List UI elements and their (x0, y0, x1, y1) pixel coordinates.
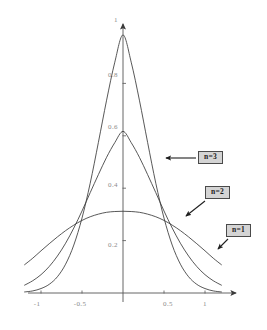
x-tick-label-1: 1 (196, 300, 214, 308)
x-tick-label-0-5: 0.5 (155, 300, 181, 308)
y-tick-label-1: 1 (98, 16, 118, 24)
y-tick-label-0-4: 0.4 (96, 181, 118, 189)
y-tick-label-0-8: 0.8 (96, 71, 118, 79)
x-tick-label-neg-1: -1 (25, 300, 49, 308)
y-tick-label-0-2: 0.2 (96, 241, 118, 249)
y-tick-label-0-6: 0.6 (96, 123, 118, 131)
callout-n1: n=1 (226, 224, 251, 237)
plot-canvas (0, 0, 267, 330)
callout-n2: n=2 (205, 186, 230, 199)
callout-n3: n=3 (198, 151, 223, 164)
arrow-n2 (186, 201, 205, 216)
chart-figure: 1 0.8 0.6 0.4 0.2 -1 -0.5 0.5 1 n=3 n=2 … (0, 0, 267, 330)
arrow-n1 (218, 239, 228, 249)
x-tick-label-neg-0-5: -0.5 (66, 300, 94, 308)
callout-arrows (166, 158, 228, 249)
